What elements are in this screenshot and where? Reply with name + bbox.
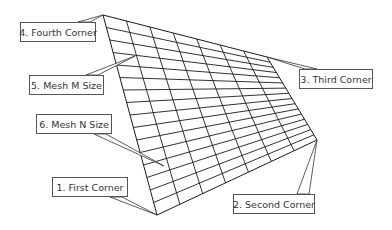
label-mesh-n-size: 6. Mesh N Size xyxy=(36,114,112,134)
callout-pointer-fourth-corner xyxy=(78,15,103,22)
mesh-grid xyxy=(103,15,317,215)
label-fourth-corner: 4. Fourth Corner xyxy=(20,22,96,42)
callout-pointer-mesh-n-size xyxy=(94,134,164,166)
label-second-corner: 2. Second Corner xyxy=(233,194,315,214)
label-first-corner: 1. First Corner xyxy=(52,177,128,197)
label-third-corner: 3. Third Corner xyxy=(299,69,373,89)
callout-pointer-first-corner xyxy=(110,197,157,215)
callout-pointer-third-corner xyxy=(267,57,317,69)
label-mesh-m-size: 5. Mesh M Size xyxy=(29,75,104,95)
